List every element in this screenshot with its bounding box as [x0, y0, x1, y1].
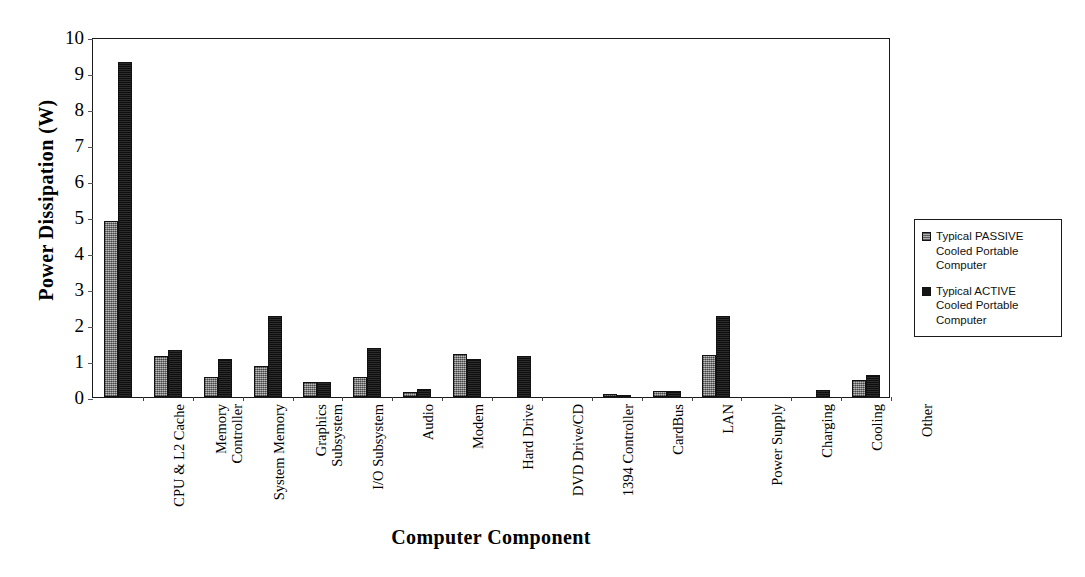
x-tick-mark	[243, 397, 244, 401]
x-axis-title: Computer Component	[92, 526, 890, 549]
y-tick-label-2: 2	[46, 316, 84, 336]
x-tick-label: Other	[871, 404, 983, 516]
x-tick-label-line: Other	[919, 404, 935, 437]
legend-entry: Typical PASSIVECooled PortableComputer	[922, 229, 1053, 273]
bar-active	[218, 359, 232, 397]
y-tick-mark	[88, 363, 93, 364]
y-axis-tick-labels: 012345678910	[46, 28, 84, 408]
y-tick-mark	[88, 147, 93, 148]
x-tick-mark	[891, 397, 892, 401]
legend-entry: Typical ACTIVECooled PortableComputer	[922, 284, 1053, 328]
x-tick-mark	[841, 397, 842, 401]
bar-active	[118, 62, 132, 397]
bar-active	[417, 389, 431, 397]
y-tick-label-6: 6	[46, 172, 84, 192]
bar-group	[503, 39, 531, 397]
bar-group	[752, 39, 780, 397]
y-tick-mark	[88, 39, 93, 40]
bar-passive	[852, 380, 866, 397]
bar-active	[517, 356, 531, 397]
legend-label-line: Cooled Portable	[936, 298, 1018, 313]
bar-group	[154, 39, 182, 397]
bar-group	[204, 39, 232, 397]
bar-active	[317, 382, 331, 397]
y-tick-mark	[88, 75, 93, 76]
y-tick-mark	[88, 183, 93, 184]
bar-passive	[653, 391, 667, 397]
x-tick-mark	[293, 397, 294, 401]
bar-passive	[154, 356, 168, 397]
x-tick-mark	[642, 397, 643, 401]
legend-label-line: Cooled Portable	[936, 244, 1023, 259]
chart-legend: Typical PASSIVECooled PortableComputerTy…	[914, 219, 1062, 337]
bar-group	[603, 39, 631, 397]
bar-active	[268, 316, 282, 397]
y-tick-label-1: 1	[46, 352, 84, 372]
bar-group	[104, 39, 132, 397]
bar-group	[353, 39, 381, 397]
bar-active	[816, 390, 830, 397]
bar-group	[852, 39, 880, 397]
bar-group	[553, 39, 581, 397]
legend-label: Typical ACTIVECooled PortableComputer	[936, 284, 1018, 328]
legend-label-line: Typical PASSIVE	[936, 229, 1023, 244]
bar-active	[866, 375, 880, 397]
x-tick-mark	[342, 397, 343, 401]
bar-group	[653, 39, 681, 397]
bar-active	[467, 359, 481, 397]
legend-label-line: Typical ACTIVE	[936, 284, 1018, 299]
y-tick-mark	[88, 291, 93, 292]
y-tick-mark	[88, 399, 93, 400]
y-tick-label-10: 10	[46, 28, 84, 48]
plot-area	[92, 38, 890, 398]
bar-active	[367, 348, 381, 397]
x-tick-mark	[193, 397, 194, 401]
x-tick-mark	[442, 397, 443, 401]
x-tick-mark	[492, 397, 493, 401]
plot-inner	[93, 39, 889, 397]
y-tick-mark	[88, 327, 93, 328]
bar-passive	[353, 377, 367, 397]
bar-group	[802, 39, 830, 397]
bar-passive	[702, 355, 716, 397]
bar-group	[254, 39, 282, 397]
x-tick-mark	[542, 397, 543, 401]
y-tick-label-8: 8	[46, 100, 84, 120]
x-tick-mark	[143, 397, 144, 401]
bar-passive	[403, 392, 417, 397]
x-axis-tick-labels: CPU & L2 CacheMemoryControllerSystem Mem…	[92, 404, 890, 516]
y-tick-label-3: 3	[46, 280, 84, 300]
x-tick-mark	[741, 397, 742, 401]
x-tick-mark	[692, 397, 693, 401]
bar-active	[716, 316, 730, 397]
bar-passive	[254, 366, 268, 397]
x-tick-mark	[392, 397, 393, 401]
y-tick-label-0: 0	[46, 388, 84, 408]
legend-label-line: Computer	[936, 258, 1023, 273]
bar-passive	[303, 382, 317, 397]
bar-passive	[453, 354, 467, 397]
legend-swatch-icon	[922, 232, 931, 241]
y-tick-mark	[88, 255, 93, 256]
legend-label: Typical PASSIVECooled PortableComputer	[936, 229, 1023, 273]
bar-active	[617, 395, 631, 397]
x-tick-mark	[791, 397, 792, 401]
y-tick-mark	[88, 111, 93, 112]
bar-group	[403, 39, 431, 397]
power-dissipation-bar-chart: Power Dissipation (W) 012345678910 CPU &…	[0, 0, 1085, 577]
y-tick-label-4: 4	[46, 244, 84, 264]
legend-label-line: Computer	[936, 313, 1018, 328]
bar-passive	[104, 221, 118, 397]
bar-group	[303, 39, 331, 397]
y-tick-mark	[88, 219, 93, 220]
bar-group	[453, 39, 481, 397]
y-tick-label-7: 7	[46, 136, 84, 156]
bar-active	[667, 391, 681, 397]
bar-active	[168, 350, 182, 397]
bar-passive	[603, 394, 617, 397]
bar-passive	[204, 377, 218, 397]
y-tick-label-5: 5	[46, 208, 84, 228]
legend-swatch-icon	[922, 287, 931, 296]
x-tick-mark	[592, 397, 593, 401]
y-tick-label-9: 9	[46, 64, 84, 84]
